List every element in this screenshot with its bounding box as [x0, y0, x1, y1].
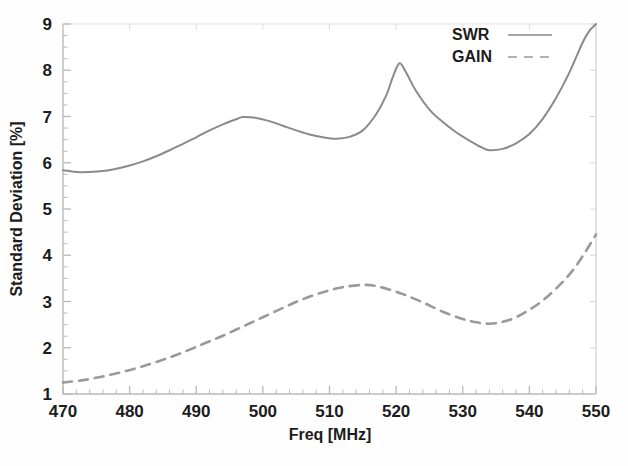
plot-background [63, 24, 596, 394]
y-axis-title: Standard Deviation [%] [8, 121, 25, 296]
standard-deviation-vs-frequency-chart: 470480490500510520530540550 123456789 Fr… [0, 0, 628, 466]
y-tick-label: 9 [43, 15, 52, 34]
x-tick-label: 520 [382, 402, 410, 421]
x-tick-label: 550 [582, 402, 610, 421]
x-tick-label: 530 [449, 402, 477, 421]
y-tick-label: 5 [43, 200, 52, 219]
y-tick-label: 1 [43, 385, 52, 404]
x-tick-label: 470 [49, 402, 77, 421]
y-tick-label: 2 [43, 339, 52, 358]
y-tick-label: 7 [43, 108, 52, 127]
x-tick-label: 500 [249, 402, 277, 421]
legend-label-gain: GAIN [452, 48, 492, 65]
y-tick-label: 6 [43, 154, 52, 173]
chart-figure: 470480490500510520530540550 123456789 Fr… [0, 0, 628, 466]
x-tick-label: 510 [315, 402, 343, 421]
y-tick-label: 8 [43, 61, 52, 80]
y-tick-label: 3 [43, 293, 52, 312]
y-axis-tick-labels: 123456789 [43, 15, 53, 404]
legend-label-swr: SWR [452, 26, 490, 43]
x-tick-label: 480 [115, 402, 143, 421]
x-tick-label: 490 [182, 402, 210, 421]
x-axis-title: Freq [MHz] [289, 426, 372, 443]
x-axis-tick-labels: 470480490500510520530540550 [49, 402, 610, 421]
x-tick-label: 540 [515, 402, 543, 421]
y-tick-label: 4 [43, 246, 53, 265]
